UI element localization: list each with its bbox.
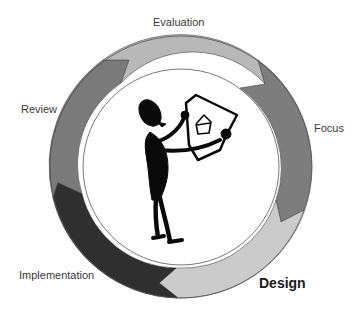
label-implementation: Implementation [19, 270, 94, 281]
label-design: Design [259, 276, 306, 290]
ring-inner-area [84, 70, 279, 265]
label-focus: Focus [314, 123, 344, 134]
cycle-diagram [0, 0, 363, 315]
label-evaluation: Evaluation [153, 17, 204, 28]
label-review: Review [21, 104, 57, 115]
